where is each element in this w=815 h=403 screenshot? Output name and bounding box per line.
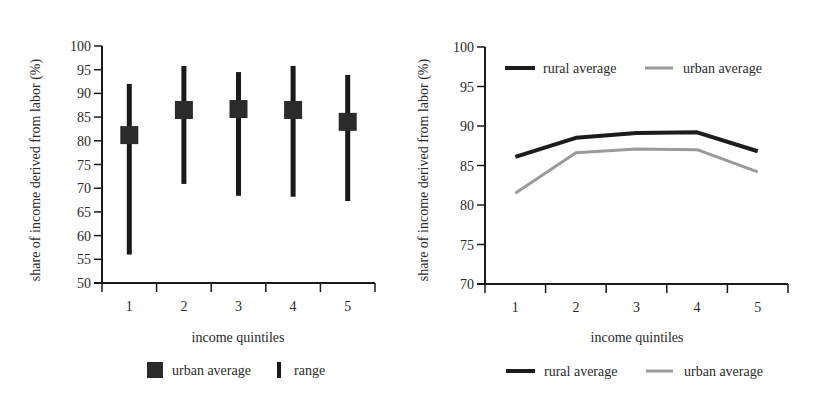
y-tick-label: 80	[77, 134, 91, 149]
y-tick-label: 65	[77, 205, 91, 220]
x-tick-label: 5	[344, 299, 351, 314]
y-tick-label: 85	[77, 110, 91, 125]
right-x-axis-label: income quintiles	[591, 330, 684, 345]
x-tick-label: 4	[694, 300, 701, 315]
urban-average-line	[515, 149, 757, 193]
x-tick-label: 1	[512, 300, 519, 315]
range-bar-icon	[277, 362, 281, 378]
left-data-series	[120, 66, 356, 255]
urban-average-marker	[120, 126, 138, 144]
left-x-ticks: 12345	[102, 283, 375, 314]
right-legend-bottom: rural average urban average	[506, 364, 763, 379]
right-legend-top-rural-label: rural average	[543, 61, 616, 76]
x-tick-label: 4	[290, 299, 297, 314]
right-legend-top: rural average urban average	[505, 61, 762, 76]
urban-average-marker	[175, 101, 193, 119]
y-tick-label: 80	[460, 198, 474, 213]
y-tick-label: 100	[70, 39, 91, 54]
left-legend: urban average range	[147, 362, 325, 378]
x-tick-label: 3	[235, 299, 242, 314]
urban-average-marker	[230, 100, 248, 118]
range-bar	[236, 72, 241, 196]
right-y-ticks: 707580859095100	[453, 40, 485, 292]
x-tick-label: 3	[633, 300, 640, 315]
y-tick-label: 70	[460, 277, 474, 292]
y-tick-label: 55	[77, 252, 91, 267]
urban-average-marker	[339, 113, 357, 131]
urban-average-square-icon	[147, 362, 163, 378]
left-x-axis-label: income quintiles	[192, 330, 285, 345]
x-tick-label: 5	[754, 300, 761, 315]
y-tick-label: 85	[460, 159, 474, 174]
range-bar	[345, 75, 350, 201]
y-tick-label: 95	[77, 63, 91, 78]
range-bar	[127, 84, 132, 255]
left-y-ticks: 50556065707580859095100	[70, 39, 102, 291]
y-tick-label: 75	[77, 158, 91, 173]
charts-canvas: 50556065707580859095100 12345 share of i…	[0, 0, 815, 403]
x-tick-label: 1	[126, 299, 133, 314]
range-bar	[291, 66, 296, 197]
right-legend-bottom-rural-label: rural average	[544, 364, 617, 379]
y-tick-label: 90	[460, 119, 474, 134]
figure: 50556065707580859095100 12345 share of i…	[0, 0, 815, 403]
right-legend-top-urban-label: urban average	[683, 61, 762, 76]
left-axes	[94, 46, 375, 284]
y-tick-label: 95	[460, 80, 474, 95]
y-tick-label: 50	[77, 276, 91, 291]
y-tick-label: 100	[453, 40, 474, 55]
y-tick-label: 75	[460, 238, 474, 253]
x-tick-label: 2	[180, 299, 187, 314]
y-tick-label: 70	[77, 181, 91, 196]
urban-average-marker	[284, 101, 302, 119]
right-x-ticks: 12345	[485, 284, 788, 315]
right-legend-bottom-urban-label: urban average	[684, 364, 763, 379]
right-data-series	[515, 132, 757, 193]
left-legend-urban-average-label: urban average	[172, 363, 251, 378]
y-tick-label: 60	[77, 229, 91, 244]
left-y-axis-label: share of income derived from labor (%)	[28, 58, 44, 281]
y-tick-label: 90	[77, 86, 91, 101]
left-legend-range-label: range	[294, 363, 325, 378]
right-y-axis-label: share of income derived from labor (%)	[416, 58, 432, 281]
x-tick-label: 2	[572, 300, 579, 315]
left-range-chart: 50556065707580859095100 12345 share of i…	[28, 39, 375, 378]
rural-average-line	[515, 132, 757, 156]
range-bar	[181, 66, 186, 184]
right-line-chart: 707580859095100 12345 share of income de…	[416, 40, 788, 379]
